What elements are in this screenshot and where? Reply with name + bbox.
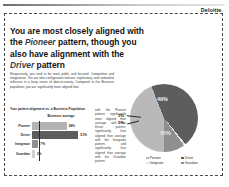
bar-category-label: Driver (21, 133, 30, 137)
legend-swatch (181, 157, 184, 160)
legend-label: Pioneer (150, 156, 161, 160)
pie-callout-guardian: 5% (118, 120, 124, 125)
brand-name: Deloitte (201, 7, 222, 13)
pie-slice-label-driver: 45% (160, 130, 171, 136)
bar-fill (32, 140, 38, 148)
legend-swatch (146, 157, 149, 160)
body-paragraph-left: Respectively, you tend to be most public… (10, 72, 114, 89)
headline-pattern-primary: Pioneer (25, 37, 56, 47)
bar-category-label: Integrator (15, 142, 30, 146)
legend-swatch (146, 162, 149, 165)
pie-callout-integrator: 1% (118, 113, 124, 118)
headline-pattern-secondary: Driver (10, 60, 34, 70)
headline-part-3: pattern (34, 60, 65, 70)
bar-value-label: 7% (40, 142, 45, 146)
bar-category-label: Guardian (16, 152, 30, 156)
legend-label: Driver (185, 156, 194, 160)
bar-fill (32, 122, 67, 130)
legend-item: Integrator (146, 161, 181, 165)
pie-slice-label-pioneer: 49% (157, 96, 168, 102)
deloitte-logo: Deloitte. (201, 7, 223, 13)
slide-canvas: Deloitte. You are most closely aligned w… (0, 0, 229, 187)
top-accent-bar (3, 4, 225, 6)
bar-reference-line (39, 121, 40, 161)
legend-label: Integrator (150, 161, 164, 165)
legend-label: Guardian (185, 161, 198, 165)
chart-subtitle: Your pattern alignment vs. a Business Po… (10, 107, 96, 111)
bar-chart: Business average Pioneer38%Driver51%Inte… (10, 114, 94, 160)
legend-item: Guardian (181, 161, 216, 165)
pie-chart-disc (130, 84, 198, 152)
pie-chart: 49% 45% 1% 5% (130, 84, 198, 152)
bar-chart-plot-area: Pioneer38%Driver51%Integrator7%Guardian3… (32, 122, 82, 158)
pie-chart-legend: PioneerDriverIntegratorGuardian (146, 156, 216, 166)
bar-value-label: 51% (80, 133, 86, 137)
bar-category-label: Pioneer (18, 124, 30, 128)
page-title: You are most closely aligned with the Pi… (10, 26, 148, 72)
legend-swatch (181, 162, 184, 165)
bar-value-label: 38% (69, 124, 75, 128)
legend-item: Pioneer (146, 156, 181, 160)
brand-dot: . (221, 7, 223, 13)
bar-fill (32, 150, 35, 158)
legend-item: Driver (181, 156, 216, 160)
bar-chart-title: Business average (32, 114, 90, 118)
